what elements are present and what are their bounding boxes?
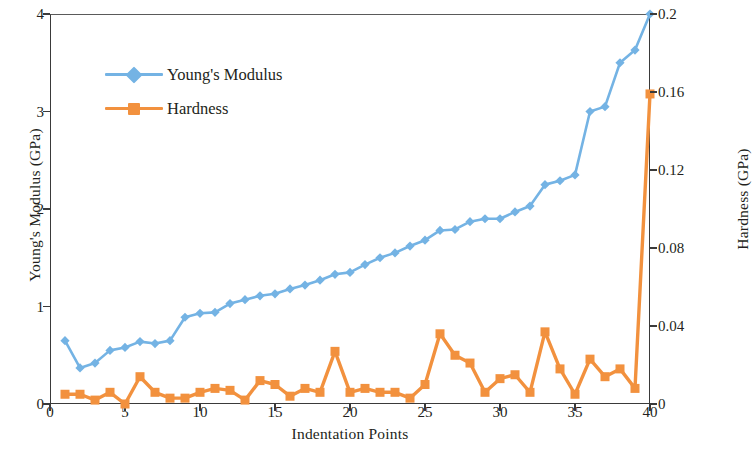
data-point-marker: [450, 225, 459, 234]
data-point-marker: [121, 400, 130, 409]
data-point-marker: [466, 359, 475, 368]
data-point-marker: [195, 309, 204, 318]
data-point-marker: [211, 384, 220, 393]
data-point-marker: [135, 337, 144, 346]
y-left-tick-mark: [43, 208, 50, 210]
data-point-marker: [390, 248, 399, 257]
data-point-marker: [241, 396, 250, 405]
legend-label-youngs-modulus: Young's Modulus: [167, 65, 282, 85]
series-hardness: [61, 89, 655, 408]
chart-figure: Young's Modulus (GPa) Hardness (GPa) Ind…: [0, 0, 752, 449]
chart-legend: Young's Modulus Hardness: [105, 58, 282, 126]
data-point-marker: [496, 374, 505, 383]
legend-item-youngs-modulus: Young's Modulus: [105, 58, 282, 92]
data-point-marker: [330, 270, 339, 279]
data-point-marker: [495, 214, 504, 223]
y-left-tick-mark: [43, 13, 50, 15]
data-point-marker: [616, 364, 625, 373]
legend-swatch-youngs-modulus: [105, 65, 163, 85]
data-point-marker: [240, 295, 249, 304]
data-point-marker: [555, 176, 564, 185]
data-point-marker: [286, 392, 295, 401]
data-point-marker: [375, 253, 384, 262]
data-point-marker: [285, 284, 294, 293]
data-point-marker: [451, 351, 460, 360]
data-point-marker: [345, 268, 354, 277]
data-point-marker: [405, 241, 414, 250]
data-point-marker: [556, 364, 565, 373]
y-left-tick-mark: [43, 111, 50, 113]
data-point-marker: [376, 388, 385, 397]
square-marker-icon: [128, 103, 140, 115]
series-line: [65, 94, 650, 404]
data-point-marker: [300, 280, 309, 289]
diamond-marker-icon: [126, 67, 143, 84]
y-right-tick-mark: [650, 13, 657, 15]
data-point-marker: [136, 372, 145, 381]
data-point-marker: [226, 386, 235, 395]
data-point-marker: [391, 388, 400, 397]
data-point-marker: [316, 388, 325, 397]
data-point-marker: [76, 390, 85, 399]
data-point-marker: [541, 327, 550, 336]
data-point-marker: [151, 388, 160, 397]
y-left-tick-mark: [43, 306, 50, 308]
legend-item-hardness: Hardness: [105, 92, 282, 126]
data-point-marker: [360, 260, 369, 269]
data-point-marker: [601, 372, 610, 381]
data-point-marker: [481, 388, 490, 397]
data-point-marker: [346, 388, 355, 397]
data-point-marker: [361, 384, 370, 393]
data-point-marker: [585, 107, 594, 116]
y-right-tick-mark: [650, 325, 657, 327]
data-point-marker: [255, 291, 264, 300]
data-point-marker: [271, 380, 280, 389]
y-right-tick-mark: [650, 247, 657, 249]
data-point-marker: [181, 394, 190, 403]
y-left-tick-mark: [43, 403, 50, 405]
data-point-marker: [150, 339, 159, 348]
data-point-marker: [270, 289, 279, 298]
data-point-marker: [631, 384, 640, 393]
data-point-marker: [526, 388, 535, 397]
data-point-marker: [570, 170, 579, 179]
data-point-marker: [61, 390, 70, 399]
data-point-marker: [106, 388, 115, 397]
data-point-marker: [120, 343, 129, 352]
data-point-marker: [196, 388, 205, 397]
data-point-marker: [511, 370, 520, 379]
data-point-marker: [586, 355, 595, 364]
data-point-marker: [315, 276, 324, 285]
legend-label-hardness: Hardness: [167, 99, 228, 119]
data-point-marker: [436, 329, 445, 338]
data-point-marker: [91, 396, 100, 405]
legend-swatch-hardness: [105, 99, 163, 119]
data-point-marker: [571, 390, 580, 399]
data-point-marker: [600, 102, 609, 111]
y-right-tick-mark: [650, 91, 657, 93]
data-point-marker: [465, 217, 474, 226]
data-point-marker: [166, 394, 175, 403]
data-point-marker: [480, 214, 489, 223]
data-point-marker: [406, 394, 415, 403]
data-point-marker: [421, 380, 430, 389]
y-right-tick-mark: [650, 169, 657, 171]
data-point-marker: [301, 384, 310, 393]
data-point-marker: [331, 347, 340, 356]
data-point-marker: [510, 207, 519, 216]
data-point-marker: [256, 376, 265, 385]
y-right-tick-mark: [650, 403, 657, 405]
